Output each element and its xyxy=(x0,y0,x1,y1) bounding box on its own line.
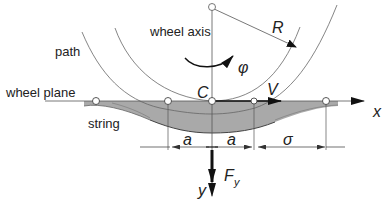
radius-symbol: R xyxy=(272,19,284,36)
contact-center-point xyxy=(209,98,216,105)
x-axis-symbol: x xyxy=(372,103,382,120)
force-subscript: y xyxy=(233,176,241,188)
string-point-far-left xyxy=(93,98,100,105)
wheel-axis-label: wheel axis xyxy=(149,24,211,39)
contact-end-point xyxy=(251,98,257,104)
string-point-far-right xyxy=(323,98,330,105)
tire-string-model-diagram: wheel axis path wheel plane string R φ C… xyxy=(0,0,386,201)
half-contact-right-symbol: a xyxy=(227,131,236,148)
path-label: path xyxy=(55,44,80,59)
velocity-symbol: V xyxy=(267,81,279,98)
string-label: string xyxy=(88,116,120,131)
wheel-center-point xyxy=(209,4,216,11)
rotation-arrow xyxy=(185,56,233,67)
contact-start-point xyxy=(165,98,172,105)
half-contact-left-symbol: a xyxy=(183,131,192,148)
contact-center-symbol: C xyxy=(197,84,209,101)
rotation-symbol: φ xyxy=(238,59,248,76)
y-axis-symbol: y xyxy=(197,182,207,199)
relaxation-length-symbol: σ xyxy=(283,131,294,148)
wheel-plane-label: wheel plane xyxy=(5,85,75,100)
